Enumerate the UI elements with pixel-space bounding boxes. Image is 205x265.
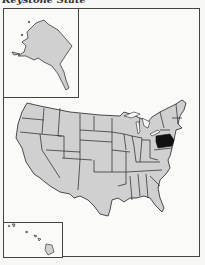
alaska-shape: [12, 20, 72, 90]
conus-shape: [16, 100, 186, 216]
pennsylvania-highlight: [156, 134, 174, 148]
us-map: [0, 0, 205, 265]
hawaii-shape: [8, 224, 54, 255]
